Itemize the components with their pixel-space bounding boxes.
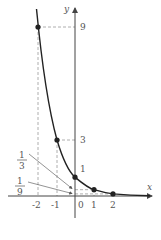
point-0-1 <box>72 175 77 180</box>
fraction-label-one-ninth: 1 9 <box>15 176 25 197</box>
svg-text:1: 1 <box>17 176 23 186</box>
arrow-one-ninth <box>28 182 72 194</box>
y-axis-label: y <box>63 4 70 14</box>
point-1-third <box>91 187 96 192</box>
svg-text:1: 1 <box>19 150 25 160</box>
fraction-label-one-third: 1 3 <box>17 150 27 171</box>
x-tick-2: 2 <box>110 200 116 210</box>
y-tick-3: 3 <box>80 135 86 145</box>
y-tick-1: 1 <box>80 164 86 174</box>
y-tick-9: 9 <box>80 22 86 32</box>
point-neg1-3 <box>54 137 59 142</box>
exponential-curve <box>37 9 151 196</box>
origin-label: 0 <box>78 200 84 210</box>
svg-text:9: 9 <box>17 187 23 197</box>
x-tick-1: 1 <box>91 200 97 210</box>
point-neg2-9 <box>35 24 40 29</box>
svg-text:3: 3 <box>19 161 25 171</box>
x-tick-neg2: -2 <box>32 200 41 210</box>
exponential-graph: y x 0 -2 -1 1 2 9 3 1 1 3 1 9 <box>0 0 161 240</box>
arrow-one-third <box>29 154 72 189</box>
point-2-ninth <box>110 191 115 196</box>
x-axis-label: x <box>147 182 152 192</box>
x-tick-neg1: -1 <box>51 200 60 210</box>
